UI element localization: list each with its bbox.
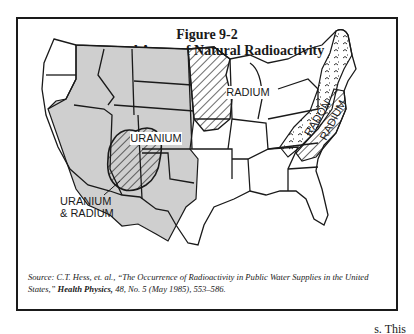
us-radioactivity-map: URANIUM RADIUM URANIUM & RADIUM RADON RA… xyxy=(18,19,396,269)
source-citation: Source: C.T. Hess, et. al., “The Occurre… xyxy=(28,271,392,295)
uranium-label: URANIUM xyxy=(130,132,181,144)
radium-midwest-label: RADIUM xyxy=(226,86,269,98)
journal-name: Health Physics, xyxy=(58,284,113,294)
uranium-radium-label-line1: URANIUM xyxy=(60,195,111,207)
page-text-fragment: s. This xyxy=(374,322,406,334)
figure-frame: Figure 9-2 General Areas of Natural Radi… xyxy=(16,17,398,311)
source-details: 48, No. 5 (May 1985), 553–586. xyxy=(113,284,226,294)
uranium-radium-label-line2: & RADIUM xyxy=(60,207,114,219)
